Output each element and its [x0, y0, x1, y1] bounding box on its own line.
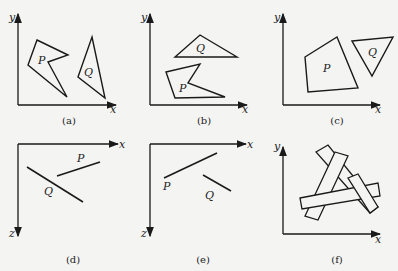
label-q: Q — [205, 189, 214, 202]
panel-e: x z P Q (e) — [140, 138, 254, 265]
z-axis-label: z — [8, 227, 15, 240]
label-q: Q — [196, 42, 205, 55]
caption-d: (d) — [66, 254, 80, 265]
y-axis-label: y — [140, 11, 148, 24]
label-q: Q — [368, 46, 377, 59]
caption-f: (f) — [331, 254, 343, 265]
polygon-p — [28, 40, 68, 97]
label-p: P — [322, 62, 331, 75]
y-axis-label: y — [273, 140, 281, 153]
caption-b: (b) — [197, 115, 211, 126]
x-axis-label: x — [375, 233, 382, 246]
caption-e: (e) — [196, 254, 210, 265]
label-q: Q — [84, 66, 93, 79]
panel-c: y x P Q (c) — [273, 11, 393, 126]
panel-d: x z P Q (d) — [8, 138, 126, 265]
panel-b: y x Q P (b) — [140, 11, 249, 126]
x-axis-label: x — [375, 103, 382, 116]
depth-sort-figure: y x P Q (a) y x Q P (b) y x P Q (c) x z — [0, 0, 398, 271]
x-axis-label: x — [119, 138, 126, 151]
caption-a: (a) — [62, 115, 76, 126]
x-axis-label: x — [242, 103, 249, 116]
segment-q — [27, 167, 83, 202]
y-axis-label: y — [273, 11, 281, 24]
label-p: P — [76, 152, 85, 165]
polygon-q — [175, 35, 237, 57]
label-q: Q — [44, 185, 53, 198]
polygon-p — [166, 64, 225, 98]
polygon-p — [305, 37, 358, 92]
segment-p — [164, 153, 217, 178]
panel-a: y x P Q (a) — [8, 11, 117, 126]
panel-f: y x (f) — [273, 140, 382, 265]
y-axis-label: y — [8, 11, 16, 24]
x-axis-label: x — [247, 138, 254, 151]
label-p: P — [37, 54, 46, 67]
x-axis-label: x — [110, 103, 117, 116]
label-p: P — [178, 82, 187, 95]
label-p: P — [162, 180, 171, 193]
caption-c: (c) — [330, 115, 344, 126]
z-axis-label: z — [140, 227, 147, 240]
